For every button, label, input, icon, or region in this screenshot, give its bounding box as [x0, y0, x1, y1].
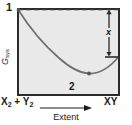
point-2-label: 2: [69, 81, 75, 92]
x-axis-left-label: X2 + Y2: [1, 96, 33, 108]
y-axis-label-subscript: sys: [4, 49, 10, 58]
gibbs-energy-curve: [18, 10, 118, 74]
y-axis-label-main: G: [0, 58, 10, 65]
gap-label-x: x: [105, 28, 112, 37]
x-axis-right-label: XY: [104, 96, 117, 107]
point-1-label: 1: [6, 1, 12, 13]
y-axis-label: Gsys: [0, 40, 10, 74]
x-axis-left-label-plus: + Y: [12, 96, 30, 107]
extent-direction-arrow: [40, 104, 92, 112]
x-axis-left-label-y-sub: 2: [29, 101, 33, 108]
gibbs-energy-extent-figure: Gsys 1 2 x X2 + Y2 XY Extent: [0, 0, 132, 125]
gap-arrow-head-down: [106, 52, 111, 57]
x-axis-left-label-x: X: [1, 96, 8, 107]
point-1-marker: [17, 8, 21, 12]
x-axis-title: Extent: [0, 112, 132, 122]
extent-arrow-head: [84, 105, 92, 111]
point-2-marker: [87, 72, 91, 76]
